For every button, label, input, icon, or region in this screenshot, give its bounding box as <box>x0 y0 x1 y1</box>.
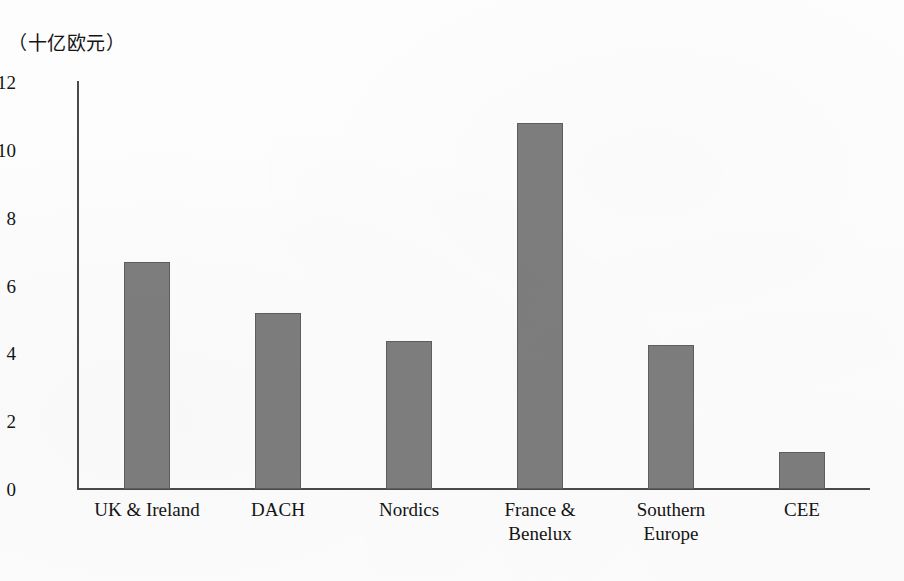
bar <box>124 262 170 489</box>
x-axis-category-label: CEE <box>722 498 882 522</box>
y-axis-unit-label: （十亿欧元） <box>8 28 125 55</box>
bar <box>648 345 694 489</box>
bar <box>386 341 432 489</box>
y-axis-tick-label: 10 <box>0 140 16 159</box>
y-axis-tick-label: 12 <box>0 73 16 92</box>
bar <box>255 313 301 489</box>
bar <box>779 452 825 489</box>
y-axis-tick-label: 0 <box>0 480 16 499</box>
plot-area <box>78 82 870 489</box>
y-axis-tick-label: 6 <box>0 276 16 295</box>
bar-chart-figure: （十亿欧元） 024681012 UK & IrelandDACHNordics… <box>0 0 904 581</box>
y-axis-tick-label: 2 <box>0 412 16 431</box>
y-axis-tick-label: 4 <box>0 344 16 363</box>
y-axis-tick-label: 8 <box>0 208 16 227</box>
bar <box>517 123 563 489</box>
